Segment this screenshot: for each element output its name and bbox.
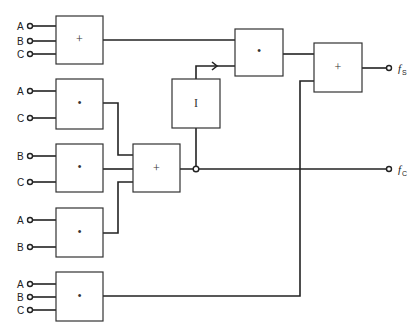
and-symbol: • [77,289,81,303]
gate5-inputs: A B C [17,279,56,316]
input-terminal [28,218,33,223]
gate-g2: • [56,79,103,129]
input-terminal [28,116,33,121]
gate-g3: • [56,144,103,192]
svg-text:fS: fS [398,62,407,76]
gate-g7-inverter: I [172,79,220,128]
input-terminal [28,154,33,159]
or-symbol: + [76,32,83,46]
logic-circuit-diagram: A B C A C B C A B A B C [0,0,420,336]
input-terminal [28,308,33,313]
input-label: B [17,292,24,303]
and-symbol: • [77,160,81,174]
and-symbol: • [77,96,81,110]
input-label: A [17,86,24,97]
gate-g1: + [56,16,103,64]
input-label: B [17,151,24,162]
input-label: C [17,49,24,60]
output-fs: fS [387,62,408,76]
gate-g6: + [133,144,180,192]
input-terminal [28,180,33,185]
input-label: B [17,242,24,253]
output-fc: fC [387,163,408,177]
input-label: C [17,305,24,316]
and-symbol: • [77,225,81,239]
input-label: B [17,36,24,47]
gate-g4: • [56,208,103,257]
input-terminal [28,295,33,300]
output-subscript: S [402,69,407,76]
gate-g8: • [235,29,283,76]
gate3-inputs: B C [17,151,56,188]
input-label: C [17,113,24,124]
input-label: A [17,279,24,290]
inverter-symbol: I [194,96,198,110]
input-terminal [28,89,33,94]
output-subscript: C [402,170,407,177]
output-terminal [387,167,392,172]
input-label: C [17,177,24,188]
gate2-inputs: A C [17,86,56,124]
gate-g9: + [314,43,362,92]
input-label: A [17,215,24,226]
input-terminal [28,39,33,44]
svg-text:fC: fC [398,163,407,177]
input-terminal [28,24,33,29]
gate1-inputs: A B C [17,21,56,60]
input-terminal [28,52,33,57]
gate-g5: • [56,272,103,321]
input-terminal [28,245,33,250]
output-terminal [387,66,392,71]
gate4-inputs: A B [17,215,56,253]
input-terminal [28,282,33,287]
input-label: A [17,21,24,32]
or-symbol: + [153,161,160,175]
junction-node [193,166,199,172]
or-symbol: + [335,60,342,74]
and-symbol: • [257,44,261,58]
